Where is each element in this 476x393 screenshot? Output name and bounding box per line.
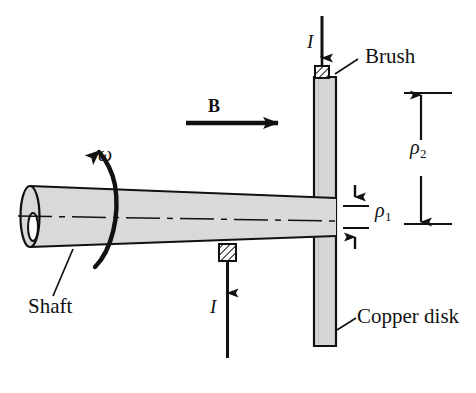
rho-1-symbol: ρ: [375, 199, 385, 221]
rho-1-subscript: 1: [385, 209, 392, 224]
shaft-label: Shaft: [28, 296, 72, 317]
copper-disk-label: Copper disk: [357, 306, 459, 327]
rho-2-symbol: ρ: [410, 136, 420, 158]
current-label-top: I: [307, 32, 313, 51]
top-brush-contact: [315, 66, 329, 78]
current-label-bottom: I: [210, 297, 216, 316]
angular-velocity-label: ω: [98, 144, 112, 164]
rho-2-subscript: 2: [420, 146, 427, 161]
bottom-brush-contact: [219, 244, 236, 261]
brush-label: Brush: [365, 46, 415, 67]
rotating-shaft: [21, 186, 337, 247]
rho-1-label: ρ1: [375, 200, 392, 223]
rho-2-label: ρ2: [410, 137, 427, 160]
magnetic-field-label: B: [208, 97, 220, 115]
